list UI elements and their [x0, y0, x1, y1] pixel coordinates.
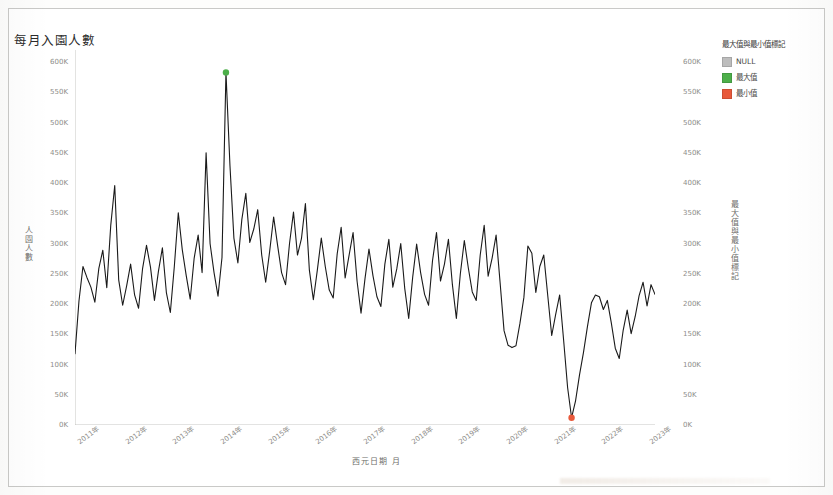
legend-item[interactable]: 最大值 [722, 71, 785, 84]
y-tick-label-right: 500K [683, 119, 701, 127]
max-value-marker[interactable] [223, 69, 229, 75]
legend: 最大值與最小值標記 NULL最大值最小值 [722, 38, 785, 103]
legend-swatch-icon [722, 57, 732, 67]
legend-item-label: 最小值 [736, 87, 757, 100]
legend-item-label: 最大值 [736, 71, 757, 84]
y-tick-label: 250K [50, 270, 68, 278]
min-value-marker[interactable] [568, 415, 574, 421]
y-tick-label: 50K [55, 391, 69, 399]
y-tick-label-right: 250K [683, 270, 701, 278]
y-axis-ticks-left: 0K50K100K150K200K250K300K350K400K450K500… [34, 50, 68, 425]
line-chart-svg [75, 50, 655, 425]
y-tick-label-right: 300K [683, 240, 701, 248]
legend-items: NULL最大值最小值 [722, 55, 785, 100]
y-tick-label: 150K [50, 330, 68, 338]
y-tick-label: 400K [50, 179, 68, 187]
y-tick-label-right: 350K [683, 209, 701, 217]
y-tick-label-right: 150K [683, 330, 701, 338]
y-axis-ticks-right: 0K50K100K150K200K250K300K350K400K450K500… [683, 50, 723, 425]
series-line [75, 72, 655, 417]
y-axis-label-right: 最大值與最小值標記 [728, 200, 739, 281]
y-tick-label-right: 0K [683, 421, 692, 429]
legend-title: 最大值與最小值標記 [722, 38, 785, 51]
y-tick-label-right: 50K [683, 391, 697, 399]
y-tick-label-right: 450K [683, 149, 701, 157]
y-tick-label: 550K [50, 88, 68, 96]
y-tick-label: 450K [50, 149, 68, 157]
y-tick-label: 0K [59, 421, 68, 429]
y-tick-label: 350K [50, 209, 68, 217]
y-tick-label: 200K [50, 300, 68, 308]
y-tick-label-right: 200K [683, 300, 701, 308]
page-title: 每月入園人數 [14, 30, 95, 49]
axis-lines [75, 50, 655, 425]
y-tick-label: 300K [50, 240, 68, 248]
y-tick-label-right: 600K [683, 58, 701, 66]
legend-item[interactable]: NULL [722, 55, 785, 68]
y-tick-label: 500K [50, 119, 68, 127]
y-tick-label: 600K [50, 58, 68, 66]
y-tick-label: 100K [50, 361, 68, 369]
y-axis-label-left: 人園人數 [22, 226, 33, 262]
y-tick-label-right: 550K [683, 88, 701, 96]
scan-artifact [560, 478, 770, 484]
chart-page: 每月入園人數 人園人數 最大值與最小值標記 西元日期 月 0K50K100K15… [0, 0, 833, 495]
y-tick-label-right: 100K [683, 361, 701, 369]
legend-item[interactable]: 最小值 [722, 87, 785, 100]
legend-swatch-icon [722, 89, 732, 99]
y-tick-label-right: 400K [683, 179, 701, 187]
plot-area [75, 50, 655, 425]
legend-item-label: NULL [736, 55, 755, 68]
x-axis-ticks: 2011年2012年2013年2014年2015年2016年2017年2018年… [75, 432, 655, 472]
legend-swatch-icon [722, 73, 732, 83]
